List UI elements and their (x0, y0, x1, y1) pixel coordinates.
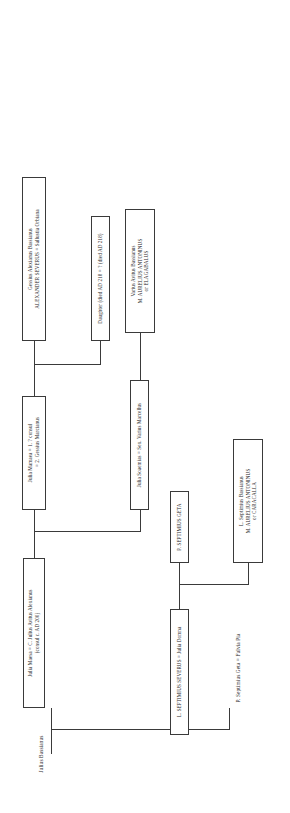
node-julia-maesa-line-1: (consul c. AD 200) (34, 613, 41, 654)
edge-severus-spine (179, 584, 248, 585)
node-septimius-severus-line-0: L. SEPTIMIUS SEVERUS = Julia Domna (176, 627, 183, 718)
edge-bassianus-spine (51, 729, 179, 730)
edge-maesa-spine (34, 531, 140, 532)
edge-geta-sr-to-severus (229, 708, 230, 730)
edge-mamaea-to-alexander (34, 341, 35, 365)
node-julius-bassianus: Julius Bassianus (38, 718, 45, 790)
edge-severus-stem (179, 585, 180, 609)
node-julia-mamaea[interactable]: Julia Mamaea = 1. ? consul = 2. Gessius … (22, 396, 46, 510)
node-daughter[interactable]: Daughter (died AD 218 = ? (died AD 218) (91, 216, 110, 341)
edge-bassianus-to-maesa (51, 708, 52, 730)
node-elagabalus[interactable]: Varius Avitus Bassianus M. AURELIUS ANTO… (125, 209, 155, 333)
node-julius-bassianus-line-0: Julius Bassianus (38, 735, 44, 772)
edge-mamaea-to-daughter (100, 341, 101, 365)
node-caracalla-line-2: or CARACALLA (251, 482, 258, 520)
edge-maesa-stem (34, 532, 35, 558)
node-julia-maesa[interactable]: Julia Maesa = C. Julius Avitus Alexianus… (23, 558, 45, 708)
edge-severus-to-geta-jr (179, 563, 180, 585)
node-septimius-geta-sr-line-0: P. Septimius Geta = Fulvia Pia (235, 634, 241, 703)
node-septimius-severus[interactable]: L. SEPTIMIUS SEVERUS = Julia Domna (170, 609, 189, 735)
family-tree-canvas: Julius Bassianus P. Septimius Geta = Ful… (0, 0, 290, 813)
edge-bassianus-stem (51, 730, 52, 754)
edge-mamaea-spine (34, 364, 100, 365)
edge-soaemias-to-elagabalus (140, 333, 141, 380)
node-daughter-line-0: Daughter (died AD 218 = ? (died AD 218) (97, 233, 104, 323)
node-septimius-geta-jr-line-0: P. SEPTIMIUS GETA (176, 503, 183, 550)
node-julia-mamaea-line-1: = 2. Gessius Marcianus (34, 417, 41, 467)
node-septimius-geta-jr[interactable]: P. SEPTIMIUS GETA (170, 491, 189, 563)
edge-maesa-to-soaemias (140, 510, 141, 532)
node-alexander-severus-line-1: ALEXANDER SEVERUS = Sallustia Orbiana (34, 209, 41, 308)
node-septimius-geta-sr: P. Septimius Geta = Fulvia Pia (235, 601, 242, 735)
node-caracalla[interactable]: L. Septimius Bassianus M. AURELIUS ANTON… (233, 439, 263, 563)
node-julia-soaemias[interactable]: Julia Soaemias = Sex. Varius Marcellus (130, 380, 149, 510)
node-elagabalus-line-2: or ELAGABALUS (143, 251, 150, 292)
node-alexander-severus[interactable]: Gessius Alexianus Bassianus ALEXANDER SE… (22, 177, 46, 341)
edge-maesa-to-mamaea (34, 510, 35, 532)
node-julia-soaemias-line-0: Julia Soaemias = Sex. Varius Marcellus (136, 403, 143, 487)
edge-severus-to-caracalla (248, 563, 249, 585)
edge-mamaea-stem (34, 365, 35, 396)
